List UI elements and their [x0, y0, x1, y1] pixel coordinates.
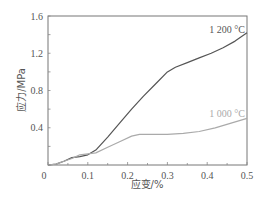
tick-labels: 00.10.20.30.40.50.40.81.21.6	[31, 11, 254, 182]
y-tick-label: 1.6	[31, 11, 44, 22]
x-axis-label: 应变/%	[131, 178, 164, 190]
y-axis-label: 应力/MPa	[15, 68, 27, 112]
y-tick-label: 0.4	[31, 122, 44, 133]
series-annotation: 1 000 °C	[209, 108, 245, 119]
axis-ticks	[48, 16, 247, 165]
plot-frame	[48, 16, 247, 165]
x-tick-label: 0	[42, 170, 47, 181]
y-tick-label: 0.8	[31, 85, 44, 96]
y-tick-label: 1.2	[31, 48, 44, 59]
x-tick-label: 0.1	[82, 170, 95, 181]
x-tick-label: 0.5	[241, 170, 254, 181]
series-lines	[48, 33, 247, 165]
stress-strain-chart: 00.10.20.30.40.50.40.81.21.6 1 200 °C1 0…	[0, 0, 262, 197]
series-line-1	[48, 118, 247, 165]
series-annotation: 1 200 °C	[209, 24, 245, 35]
x-tick-label: 0.4	[201, 170, 214, 181]
series-line-0	[48, 33, 247, 165]
